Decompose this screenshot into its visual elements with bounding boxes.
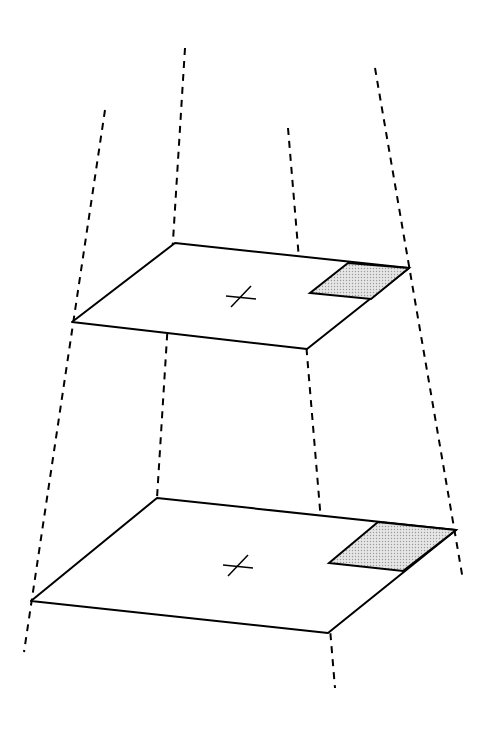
- upper-plane: [72, 243, 409, 349]
- lower-plane: [31, 498, 456, 633]
- planes: [31, 243, 456, 633]
- diagram-canvas: [0, 0, 504, 729]
- projection-line-right-back: [375, 68, 463, 580]
